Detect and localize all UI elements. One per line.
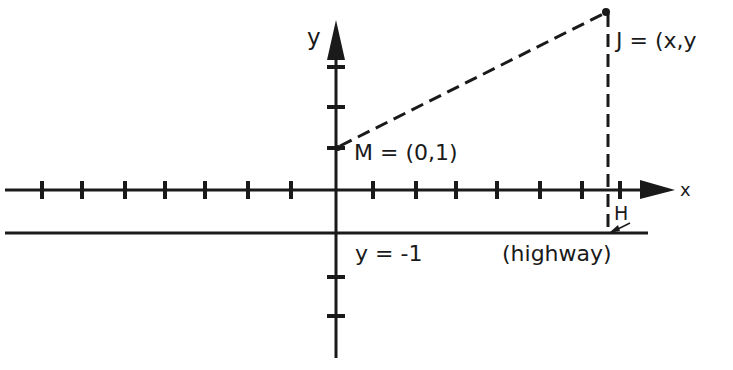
y-axis-label: y	[307, 26, 321, 49]
coordinate-diagram	[0, 0, 733, 370]
point-m-label: M = (0,1)	[354, 142, 458, 164]
highway-equation-label: y = -1	[355, 243, 422, 265]
point-j	[602, 8, 610, 16]
point-m	[335, 145, 341, 151]
x-axis-arrow-icon	[640, 180, 675, 199]
point-h-label: H	[614, 204, 628, 223]
x-axis-label: x	[680, 181, 691, 199]
y-axis-arrow-icon	[327, 20, 345, 60]
dashed-line-m-to-j	[340, 13, 605, 146]
highway-label: (highway)	[502, 243, 612, 265]
point-j-label: J = (x,y	[616, 30, 697, 52]
